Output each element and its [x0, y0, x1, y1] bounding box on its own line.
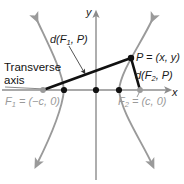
hyperbola-right-branch — [119, 18, 153, 164]
distance-f1-p-label: d(F1, P) — [50, 33, 88, 47]
focus2-head: F — [118, 95, 125, 107]
focus1-label: F1 = (−c, 0) — [5, 95, 60, 109]
origin-dot — [93, 87, 99, 93]
y-axis-label: y — [86, 6, 92, 18]
distance-f1-p-tail: , P) — [71, 33, 88, 45]
distance-f2-p-label: d(F2, P) — [135, 69, 173, 83]
transverse-axis-label: Transverse axis — [4, 61, 61, 86]
leader-line-df1p — [69, 46, 84, 72]
focus1-tail: = (−c, 0) — [16, 95, 60, 107]
distance-f1-p-head: d(F — [50, 33, 67, 45]
vertex-left-dot — [61, 87, 67, 93]
point-p-dot — [128, 55, 134, 61]
vertex-right-dot — [116, 87, 122, 93]
figure-canvas — [0, 0, 184, 184]
focus2-label: F2 = (c, 0) — [118, 95, 166, 109]
focus1-dot — [40, 87, 46, 93]
focus2-dot — [137, 87, 143, 93]
focus2-tail: = (c, 0) — [129, 95, 167, 107]
distance-f2-p-head: d(F — [135, 69, 152, 81]
transverse-axis-underline — [5, 87, 45, 89]
transverse-axis-line2: axis — [4, 74, 24, 86]
hyperbola-figure: Transverse axis d(F1, P) P = (x, y) d(F2… — [0, 0, 184, 184]
focus1-head: F — [5, 95, 12, 107]
transverse-axis-line1: Transverse — [4, 61, 61, 73]
distance-f2-p-tail: , P) — [156, 69, 173, 81]
x-axis-label: x — [172, 86, 178, 98]
point-p-label: P = (x, y) — [136, 51, 180, 63]
